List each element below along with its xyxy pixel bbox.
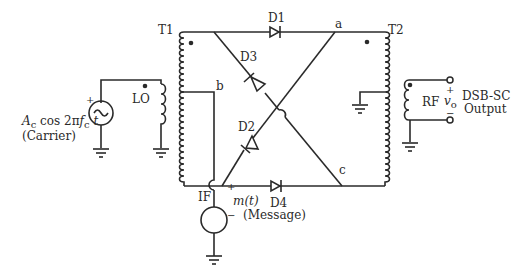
node-c-label: c <box>339 163 346 177</box>
diode-d3-branch: D3 <box>214 32 342 186</box>
polarity-dot-icon <box>408 83 413 88</box>
d2-label: D2 <box>238 120 255 134</box>
d3-label: D3 <box>240 50 257 64</box>
node-a-label: a <box>335 17 342 31</box>
message-plus: + <box>227 181 235 192</box>
t1-label: T1 <box>158 23 174 37</box>
diode-d4: D4 <box>270 180 288 210</box>
ground-icon <box>402 143 418 151</box>
output-terminal-plus[interactable] <box>447 77 453 83</box>
output-title-line2: Output <box>464 102 507 116</box>
d1-label: D1 <box>268 11 285 25</box>
diode-d1: D1 <box>268 11 285 38</box>
polarity-dot-icon <box>189 41 194 46</box>
ground-icon <box>352 105 368 113</box>
transformer-t1: T1 b <box>158 23 224 190</box>
ground-icon <box>93 149 109 157</box>
node-b-label: b <box>216 79 224 93</box>
message-expression: m(t) <box>233 194 259 208</box>
rf-label: RF <box>422 95 439 109</box>
message-caption: (Message) <box>243 208 306 222</box>
carrier-expression: Ac cos 2πfc t <box>21 114 98 130</box>
message-minus: − <box>227 210 235 221</box>
polarity-dot-icon <box>143 84 148 89</box>
mixer-circuit-diagram: + Ac cos 2πfc t (Carrier) LO T1 b D1 a <box>0 0 524 274</box>
output-title-line1: DSB-SC <box>462 89 510 103</box>
carrier-plus: + <box>86 94 94 105</box>
message-source: IF + m(t) − (Message) <box>198 181 306 264</box>
polarity-dot-icon <box>365 40 370 45</box>
carrier-caption: (Carrier) <box>22 129 76 143</box>
rf-output: RF + vo − DSB-SC Output <box>402 77 510 151</box>
message-source-icon <box>201 207 227 233</box>
lo-coil: LO <box>132 84 169 157</box>
if-label: IF <box>198 190 211 204</box>
ground-icon <box>153 149 169 157</box>
lo-label: LO <box>132 92 150 106</box>
t2-label: T2 <box>388 23 404 37</box>
transformer-t2: T2 <box>352 23 404 186</box>
output-minus: − <box>446 108 454 119</box>
ground-icon <box>206 256 222 264</box>
